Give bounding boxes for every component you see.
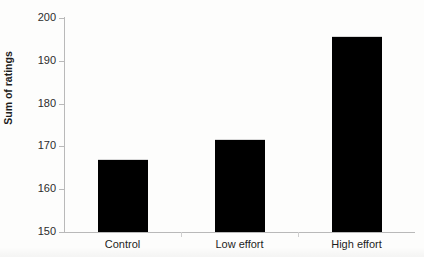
y-axis-tick xyxy=(59,189,64,190)
y-axis-tick-label: 200 xyxy=(2,12,56,23)
chart-figure: Sum of ratings 150160170180190200 Contro… xyxy=(0,0,424,257)
y-axis-tick-labels: 150160170180190200 xyxy=(0,0,56,257)
y-axis-tick xyxy=(59,104,64,105)
x-axis-line xyxy=(64,232,415,233)
y-axis-tick xyxy=(59,61,64,62)
x-axis-category-label: Control xyxy=(64,238,181,250)
x-axis-category-label: Low effort xyxy=(181,238,298,250)
x-axis-tick xyxy=(181,232,182,237)
x-axis-category-label: High effort xyxy=(298,238,415,250)
bar xyxy=(215,140,265,232)
y-axis-tick-label: 160 xyxy=(2,183,56,194)
bar xyxy=(98,160,148,232)
x-axis-tick xyxy=(298,232,299,237)
plot-area xyxy=(64,18,415,232)
y-axis-tick xyxy=(59,146,64,147)
y-axis-tick-label: 170 xyxy=(2,140,56,151)
y-axis-tick xyxy=(59,232,64,233)
bar xyxy=(332,37,382,232)
y-axis-tick-label: 180 xyxy=(2,98,56,109)
y-axis-tick xyxy=(59,18,64,19)
y-axis-tick-label: 190 xyxy=(2,55,56,66)
y-axis-tick-label: 150 xyxy=(2,226,56,237)
